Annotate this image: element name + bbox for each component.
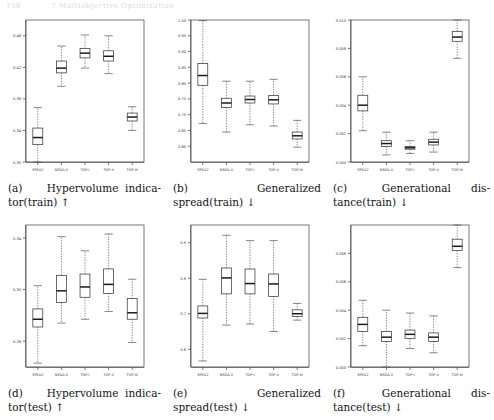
figure-panel-a: 0.300.340.380.420.46SPEA2NSGA-IITOP-ITOP… [0, 10, 165, 215]
x-tick-label: NSGA-II [380, 373, 393, 377]
x-tick-label: TOP-III [451, 168, 463, 172]
boxplot-svg-f: 0.0000.0020.0040.0060.008SPEA2NSGA-IITOP… [325, 217, 477, 387]
boxplot-svg-c: 0.0000.0020.0040.0060.0080.010SPEA2NSGA-… [325, 12, 477, 182]
figure-panel-e: 0.60.70.80.9SPEA2NSGA-IITOP-ITOP-IITOP-I… [165, 215, 325, 420]
y-tick-label: 0.85 [178, 66, 186, 70]
boxplot-c: 0.0000.0020.0040.0060.0080.010SPEA2NSGA-… [325, 12, 494, 182]
caption-a-line1: Hypervolume indica- [47, 182, 161, 196]
x-tick-label: TOP-III [126, 168, 138, 172]
plot-frame [351, 225, 469, 367]
y-tick-label: 0.000 [336, 366, 347, 370]
caption-f-line1: Generational dis- [382, 387, 490, 401]
box-iqr [198, 64, 208, 86]
box-TOP-II [104, 36, 114, 74]
box-TOP-II [429, 132, 439, 152]
caption-c-line2: tance(train) ↓ [333, 196, 490, 210]
caption-e-tag: (e) [173, 387, 187, 401]
box-NSGA-II [221, 235, 231, 325]
box-TOP-II [104, 234, 114, 311]
boxplot-svg-b: 0.600.650.700.750.800.850.900.951.00SPEA… [165, 12, 317, 182]
x-tick-label: TOP-II [427, 168, 438, 172]
box-iqr [221, 268, 231, 294]
box-TOP-I [405, 313, 415, 348]
x-tick-label: NSGA-II [220, 168, 233, 172]
caption-c: (c) Generational dis- tance(train) ↓ [333, 182, 490, 209]
y-tick-label: 0.004 [336, 104, 347, 108]
x-tick-label: NSGA-II [220, 373, 233, 377]
x-tick-label: TOP-II [427, 373, 438, 377]
box-SPEA2 [358, 300, 368, 345]
caption-a: (a) Hypervolume indica- tor(train) ↑ [8, 182, 161, 209]
caption-d-line2: tor(test) ↑ [8, 401, 161, 415]
caption-c-line1: Generational dis- [382, 182, 490, 196]
boxplot-svg-e: 0.60.70.80.9SPEA2NSGA-IITOP-ITOP-IITOP-I… [165, 217, 317, 387]
y-tick-label: 0.30 [13, 288, 22, 292]
box-TOP-I [80, 251, 90, 319]
boxplot-f: 0.0000.0020.0040.0060.008SPEA2NSGA-IITOP… [325, 217, 494, 387]
running-title: 7 Multiobjective Optimization [51, 2, 174, 10]
box-SPEA2 [198, 21, 208, 124]
box-SPEA2 [358, 77, 368, 131]
caption-c-tag: (c) [333, 182, 347, 196]
caption-d: (d) Hypervolume indica- tor(test) ↑ [8, 387, 161, 414]
box-SPEA2 [33, 108, 43, 162]
x-tick-label: TOP-III [451, 373, 463, 377]
box-TOP-III [292, 303, 302, 320]
plot-frame [191, 225, 309, 367]
caption-b-line2: spread(train) ↓ [173, 196, 321, 210]
box-NSGA-II [381, 310, 391, 367]
caption-b-tag: (b) [173, 182, 188, 196]
caption-e: (e) Generalized spread(test) ↓ [173, 387, 321, 414]
box-TOP-I [80, 35, 90, 68]
plot-frame [26, 20, 144, 162]
x-tick-label: SPEA2 [357, 168, 368, 172]
box-TOP-II [269, 241, 279, 332]
y-tick-label: 0.80 [178, 82, 187, 86]
y-tick-label: 0.006 [336, 280, 347, 284]
y-tick-label: 0.38 [13, 97, 22, 101]
y-tick-label: 0.6 [180, 348, 186, 352]
y-tick-label: 0.70 [178, 113, 187, 117]
x-tick-label: TOP-II [102, 168, 113, 172]
x-tick-label: NSGA-II [380, 168, 393, 172]
page-number: 158 [6, 2, 21, 10]
boxplot-d: 0.260.300.34SPEA2NSGA-IITOP-ITOP-IITOP-I… [0, 217, 165, 387]
y-tick-label: 0.8 [180, 277, 186, 281]
boxplot-b: 0.600.650.700.750.800.850.900.951.00SPEA… [165, 12, 325, 182]
caption-b-line1: Generalized [257, 182, 321, 196]
y-tick-label: 0.26 [13, 340, 22, 344]
caption-d-line1: Hypervolume indica- [47, 387, 161, 401]
y-tick-label: 0.008 [336, 47, 347, 51]
x-tick-label: NSGA-II [55, 373, 68, 377]
caption-f-tag: (f) [333, 387, 345, 401]
plot-frame [191, 20, 309, 162]
box-NSGA-II [221, 81, 231, 132]
x-tick-label: TOP-III [291, 168, 303, 172]
caption-f-line2: tance(test) ↓ [333, 401, 490, 415]
y-tick-label: 0.002 [336, 337, 346, 341]
y-tick-label: 0.95 [178, 34, 186, 38]
y-tick-label: 0.000 [336, 161, 347, 165]
caption-a-line2: tor(train) ↑ [8, 196, 161, 210]
boxplot-e: 0.60.70.80.9SPEA2NSGA-IITOP-ITOP-IITOP-I… [165, 217, 325, 387]
y-tick-label: 0.004 [336, 309, 347, 313]
y-tick-label: 0.006 [336, 75, 347, 79]
box-SPEA2 [33, 286, 43, 363]
x-tick-label: TOP-I [79, 168, 89, 172]
x-tick-label: SPEA2 [32, 373, 43, 377]
box-TOP-III [452, 20, 462, 58]
y-tick-label: 0.46 [13, 34, 22, 38]
x-tick-label: SPEA2 [357, 373, 368, 377]
x-tick-label: SPEA2 [32, 168, 43, 172]
y-tick-label: 0.30 [13, 161, 22, 165]
caption-d-tag: (d) [8, 387, 23, 401]
box-TOP-II [269, 79, 279, 126]
y-tick-label: 0.9 [180, 241, 186, 245]
x-tick-label: TOP-I [244, 373, 254, 377]
box-TOP-III [127, 279, 137, 342]
box-TOP-III [452, 225, 462, 268]
boxplot-svg-a: 0.300.340.380.420.46SPEA2NSGA-IITOP-ITOP… [0, 12, 152, 182]
y-tick-label: 0.34 [13, 129, 22, 133]
box-iqr [33, 309, 43, 327]
box-iqr [56, 275, 66, 302]
